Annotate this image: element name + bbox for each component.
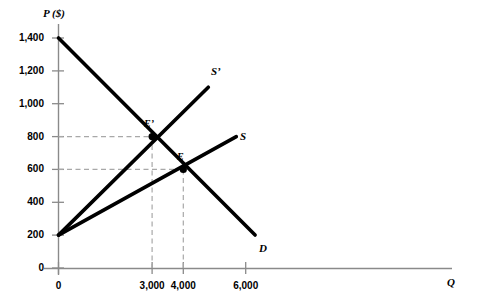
y-tick-label-0: 0 — [0, 263, 44, 273]
x-tick-label-0: 0 — [29, 281, 89, 291]
x-tick-label-6000: 6,000 — [216, 281, 276, 291]
x-axis-title: Q — [447, 277, 455, 288]
chart-plot-area — [0, 0, 483, 307]
x-tick-label-4000: 4,000 — [153, 281, 213, 291]
y-tick-label-1000: 1,000 — [0, 99, 44, 109]
y-tick-label-1200: 1,200 — [0, 66, 44, 76]
y-axis-title: P ($) — [43, 8, 65, 19]
y-tick-label-200: 200 — [0, 230, 44, 240]
demand-curve-label: D — [259, 243, 267, 254]
supply-curve-label: S — [240, 131, 246, 142]
supply-shifted-curve-label: S’ — [211, 66, 221, 77]
y-tick-label-800: 800 — [0, 132, 44, 142]
equilibrium-shifted-dot — [149, 133, 156, 140]
y-tick-label-400: 400 — [0, 197, 44, 207]
supply-demand-chart: P ($) Q 1,400 1,200 1,000 800 600 400 20… — [0, 0, 483, 307]
supply-curve — [59, 137, 237, 236]
equilibrium-dot — [180, 166, 187, 173]
equilibrium-label: E — [177, 152, 184, 162]
supply-shifted-curve — [59, 87, 209, 235]
y-tick-label-1400: 1,400 — [0, 33, 44, 43]
axis-lines — [44, 24, 452, 275]
equilibrium-shifted-label: E’ — [144, 119, 154, 129]
y-tick-label-600: 600 — [0, 164, 44, 174]
